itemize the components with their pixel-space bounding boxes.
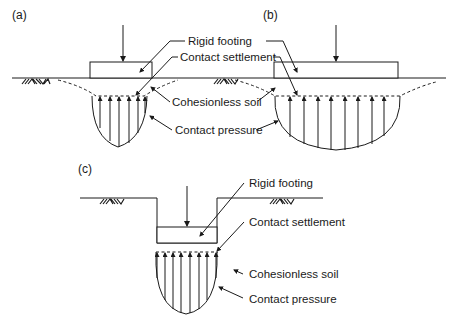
label-contact-settlement-c: Contact settlement — [249, 216, 346, 228]
settlement-profile — [235, 80, 436, 96]
panel-label-a: (a) — [12, 8, 27, 22]
leader-contact-pressure-c — [219, 287, 243, 298]
ground-hatch-icon — [214, 79, 238, 84]
label-contact-pressure: Contact pressure — [175, 124, 263, 136]
ground-hatch-icon — [100, 199, 124, 204]
label-rigid-footing: Rigid footing — [188, 35, 252, 47]
pressure-arrows — [100, 97, 145, 147]
label-cohesionless-soil: Cohesionless soil — [172, 96, 262, 108]
rigid-footing — [274, 62, 398, 78]
leader-rigid-footing-c — [200, 183, 244, 236]
label-contact-settlement: Contact settlement — [180, 51, 277, 63]
ground-hatch-icon — [270, 199, 294, 204]
pressure-arrows — [157, 253, 216, 313]
panel-label-c: (c) — [78, 162, 92, 176]
pressure-arrows — [290, 97, 384, 150]
label-rigid-footing-c: Rigid footing — [249, 177, 313, 189]
rigid-footing — [90, 62, 152, 78]
pressure-bulb — [275, 96, 400, 150]
leader-contact-pressure-a — [150, 116, 172, 130]
leader-cohesionless-soil-c — [234, 270, 243, 274]
panel-c: (c) — [78, 162, 346, 314]
contact-pressure-diagram: (a) (b) — [0, 0, 455, 324]
panel-label-b: (b) — [263, 8, 278, 22]
label-cohesionless-soil-c: Cohesionless soil — [249, 268, 339, 280]
ground-hatch-icon — [22, 79, 50, 84]
leader-contact-settlement-c — [217, 222, 244, 251]
label-contact-pressure-c: Contact pressure — [249, 293, 337, 305]
rigid-footing — [157, 227, 217, 243]
leader-cohesionless-soil-a — [151, 87, 170, 102]
